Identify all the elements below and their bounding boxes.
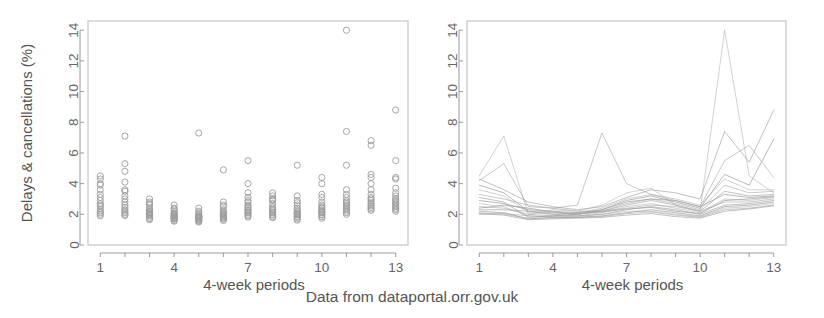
data-point xyxy=(319,174,325,180)
data-point xyxy=(122,168,128,174)
y-tick-label: 4 xyxy=(67,179,82,187)
x-axis-label: 4-week periods xyxy=(582,276,684,293)
x-tick-label: 7 xyxy=(244,260,252,275)
data-point xyxy=(294,193,300,199)
y-tick-label: 6 xyxy=(446,149,461,157)
data-series xyxy=(97,27,399,212)
data-point xyxy=(368,142,374,148)
x-tick-label: 10 xyxy=(693,260,708,275)
x-axis: 1471013 xyxy=(97,253,404,275)
x-tick-label: 13 xyxy=(388,260,403,275)
data-point xyxy=(319,181,325,187)
data-layer xyxy=(97,27,399,225)
data-point xyxy=(245,181,251,187)
data-point xyxy=(294,162,300,168)
x-tick-label: 1 xyxy=(476,260,484,275)
data-series-line xyxy=(479,139,773,214)
data-layer xyxy=(479,30,773,219)
x-axis-label: 4-week periods xyxy=(203,276,305,293)
x-tick-label: 13 xyxy=(766,260,781,275)
y-tick-label: 0 xyxy=(67,241,82,249)
y-axis-label: Delays & cancellations (%) xyxy=(18,44,35,222)
data-series xyxy=(97,200,399,222)
y-tick-label: 12 xyxy=(446,53,461,68)
x-tick-label: 4 xyxy=(549,260,557,275)
y-tick-label: 14 xyxy=(446,22,461,38)
right-panel: 14710134-week periods02468101214 xyxy=(446,21,787,293)
data-point xyxy=(122,179,128,185)
x-tick-label: 7 xyxy=(623,260,631,275)
y-axis: 02468101214 xyxy=(446,22,464,249)
data-point xyxy=(368,181,374,187)
data-point xyxy=(196,130,202,136)
y-tick-label: 2 xyxy=(446,211,461,219)
data-point xyxy=(343,27,349,33)
y-tick-label: 8 xyxy=(67,119,82,127)
data-point xyxy=(343,128,349,134)
data-point xyxy=(393,158,399,164)
y-tick-label: 8 xyxy=(446,119,461,127)
data-point xyxy=(343,162,349,168)
data-point xyxy=(122,161,128,167)
data-point xyxy=(220,167,226,173)
y-tick-label: 12 xyxy=(67,53,82,68)
y-tick-label: 2 xyxy=(67,211,82,219)
x-tick-label: 4 xyxy=(170,260,178,275)
y-tick-label: 6 xyxy=(67,149,82,157)
y-tick-label: 14 xyxy=(67,22,82,38)
y-tick-label: 4 xyxy=(446,179,461,187)
x-tick-label: 10 xyxy=(314,260,329,275)
data-point xyxy=(245,158,251,164)
data-point xyxy=(393,107,399,113)
x-tick-label: 1 xyxy=(97,260,105,275)
data-series-line xyxy=(479,133,773,208)
figure-caption: Data from dataportal.orr.gov.uk xyxy=(306,288,519,305)
data-point xyxy=(122,133,128,139)
two-panel-chart: 14710134-week periods02468101214Delays &… xyxy=(0,0,824,318)
y-tick-label: 10 xyxy=(67,84,82,99)
x-axis: 1471013 xyxy=(476,253,782,275)
y-tick-label: 10 xyxy=(446,84,461,99)
left-panel: 14710134-week periods02468101214Delays &… xyxy=(18,21,409,293)
y-tick-label: 0 xyxy=(446,241,461,249)
y-axis: 02468101214 xyxy=(67,22,85,249)
figure-container: 14710134-week periods02468101214Delays &… xyxy=(0,0,824,318)
